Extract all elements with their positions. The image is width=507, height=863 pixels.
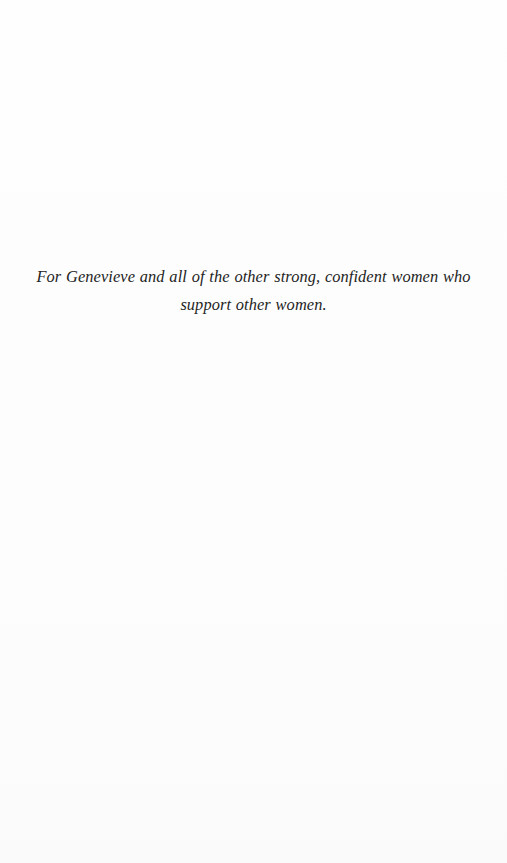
page-surface — [0, 0, 507, 863]
document-page: For Genevieve and all of the other stron… — [0, 0, 507, 863]
dedication-block: For Genevieve and all of the other stron… — [0, 263, 507, 319]
dedication-text: For Genevieve and all of the other stron… — [34, 263, 473, 319]
